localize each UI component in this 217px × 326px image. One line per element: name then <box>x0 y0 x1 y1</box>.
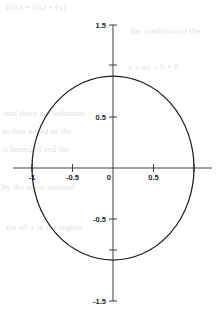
origin-label: 0 <box>107 173 111 182</box>
y-tick-label--1.5: -1.5 <box>93 297 106 306</box>
unit-circle-plot: 1.5 0.5 -0.5 -1.5 -1 -0.5 0.5 0 <box>0 0 217 326</box>
x-tick-label--1: -1 <box>29 173 36 182</box>
x-tick-label--0.5: -0.5 <box>66 173 79 182</box>
y-tick-label-0.5: 0.5 <box>96 113 106 122</box>
x-tick-label-0.5: 0.5 <box>148 173 158 182</box>
y-tick-label-1.5: 1.5 <box>96 21 106 30</box>
y-tick-label--0.5: -0.5 <box>93 215 106 224</box>
